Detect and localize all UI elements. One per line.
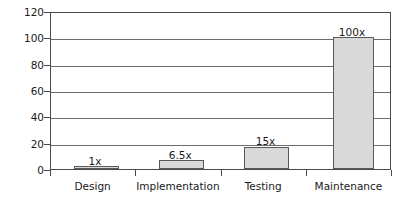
x-axis-tick-mark	[306, 170, 307, 176]
y-axis: 120 100 80 60 40 20 0	[6, 12, 44, 170]
bar-maintenance[interactable]	[333, 37, 374, 169]
x-axis-tick-mark	[50, 170, 51, 176]
y-axis-tick-label: 120	[10, 7, 44, 18]
x-axis-tick-mark	[221, 170, 222, 176]
bar-testing[interactable]	[244, 147, 289, 169]
y-axis-tick-label: 60	[10, 86, 44, 97]
x-axis-category-label-maintenance: Maintenance	[315, 181, 383, 192]
y-axis-tick-label: 20	[10, 138, 44, 149]
y-axis-tick-label: 40	[10, 112, 44, 123]
x-axis-category-label-implementation: Implementation	[136, 181, 219, 192]
x-axis-category-label-testing: Testing	[245, 181, 282, 192]
bar-implementation[interactable]	[159, 160, 204, 169]
x-axis-tick-mark	[391, 170, 392, 176]
y-axis-tick-label: 0	[10, 165, 44, 176]
bar-value-label-implementation: 6.5x	[169, 150, 192, 161]
bar-value-label-design: 1x	[89, 156, 102, 167]
y-axis-tick-label: 100	[10, 33, 44, 44]
bar-value-label-maintenance: 100x	[339, 27, 365, 38]
x-axis-tick-mark	[135, 170, 136, 176]
bar-chart: 120 100 80 60 40 20 0 1x 6.5x 15x 100x D…	[0, 0, 414, 205]
bar-value-label-testing: 15x	[256, 136, 276, 147]
y-axis-tick-label: 80	[10, 59, 44, 70]
x-axis-category-label-design: Design	[74, 181, 110, 192]
